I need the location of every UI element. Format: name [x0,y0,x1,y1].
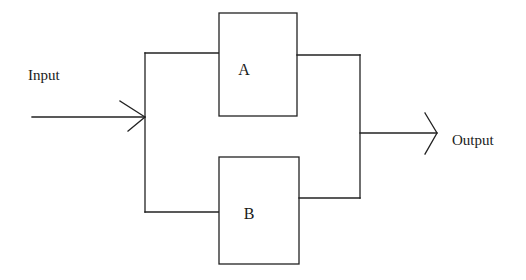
block-b [219,157,299,264]
input-label: Input [28,68,60,83]
block-a-label: A [238,62,250,78]
block-a [219,13,297,116]
diagram-canvas [0,0,526,280]
output-label: Output [452,133,494,148]
input-arrowhead-icon [120,101,145,131]
block-b-label: B [244,206,255,222]
